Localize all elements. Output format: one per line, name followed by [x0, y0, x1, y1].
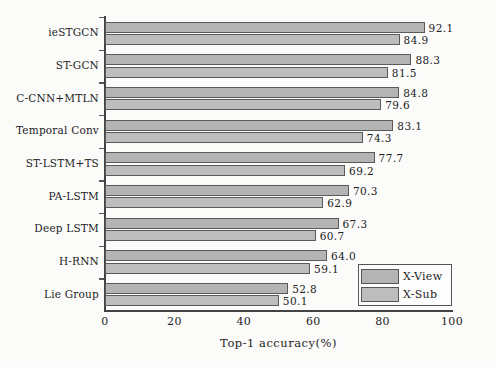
- bar-x-view-st-lstm-ts: [105, 152, 375, 163]
- y-axis-label-temporal-conv: Temporal Conv: [16, 124, 99, 136]
- bar-x-sub-st-gcn: [105, 67, 388, 78]
- bar-value-label: 70.3: [353, 186, 378, 197]
- bar-x-sub-lie-group: [105, 295, 279, 306]
- bar-value-label: 84.8: [403, 88, 428, 99]
- bar-value-label: 64.0: [331, 251, 356, 262]
- y-axis-label-pa-lstm: PA-LSTM: [48, 190, 99, 202]
- y-axis-label-iestgcn: ieSTGCN: [48, 26, 99, 38]
- y-axis-label-lie-group: Lie Group: [44, 288, 99, 300]
- bar-value-label: 83.1: [397, 121, 422, 132]
- bar-x-view-st-gcn: [105, 54, 411, 65]
- legend-swatch-x-view: [361, 269, 399, 284]
- legend-swatch-x-sub: [361, 287, 399, 302]
- legend-label: X-View: [403, 270, 442, 283]
- x-axis-tick-0: 0: [101, 315, 108, 328]
- bar-x-view-h-rnn: [105, 250, 327, 261]
- legend-item-x-view[interactable]: X-View: [361, 267, 449, 285]
- x-axis-tick-100: 100: [441, 315, 463, 328]
- bar-x-sub-temporal-conv: [105, 132, 363, 143]
- bar-x-sub-c-cnn-mtln: [105, 99, 381, 110]
- y-axis-label-st-gcn: ST-GCN: [56, 59, 99, 71]
- legend-item-x-sub[interactable]: X-Sub: [361, 285, 449, 303]
- bar-value-label: 62.9: [327, 198, 352, 209]
- y-axis-label-h-rnn: H-RNN: [59, 255, 99, 267]
- bar-value-label: 60.7: [320, 231, 345, 242]
- bar-value-label: 59.1: [314, 264, 339, 275]
- bar-value-label: 88.3: [415, 55, 440, 66]
- bar-value-label: 77.7: [379, 153, 404, 164]
- chart-legend: X-ViewX-Sub: [358, 264, 452, 306]
- x-axis-tick-60: 60: [306, 315, 321, 328]
- bar-x-view-temporal-conv: [105, 120, 393, 131]
- bar-x-view-iestgcn: [105, 22, 425, 33]
- bar-x-view-lie-group: [105, 283, 288, 294]
- legend-label: X-Sub: [403, 288, 437, 301]
- bar-value-label: 92.1: [429, 23, 454, 34]
- y-axis-label-deep-lstm: Deep LSTM: [34, 222, 99, 234]
- bar-value-label: 74.3: [367, 133, 392, 144]
- bar-x-view-deep-lstm: [105, 218, 339, 229]
- bar-value-label: 67.3: [343, 219, 368, 230]
- x-axis-tick-20: 20: [167, 315, 182, 328]
- bar-value-label: 50.1: [283, 296, 308, 307]
- y-axis-category-labels: ieSTGCNST-GCNC-CNN+MTLNTemporal ConvST-L…: [0, 17, 99, 311]
- bar-x-sub-iestgcn: [105, 34, 400, 45]
- bar-value-label: 69.2: [349, 166, 374, 177]
- x-axis-tick-40: 40: [236, 315, 251, 328]
- bar-value-label: 79.6: [385, 100, 410, 111]
- bar-value-label: 81.5: [392, 68, 417, 79]
- bar-x-sub-st-lstm-ts: [105, 165, 345, 176]
- bar-x-sub-h-rnn: [105, 263, 310, 274]
- y-axis-label-c-cnn-mtln: C-CNN+MTLN: [16, 92, 99, 104]
- bar-x-view-pa-lstm: [105, 185, 349, 196]
- bar-value-label: 52.8: [292, 284, 317, 295]
- bar-x-view-c-cnn-mtln: [105, 87, 399, 98]
- bar-x-sub-pa-lstm: [105, 197, 323, 208]
- bar-chart: ieSTGCNST-GCNC-CNN+MTLNTemporal ConvST-L…: [0, 0, 496, 367]
- bar-x-sub-deep-lstm: [105, 230, 316, 241]
- y-axis-label-st-lstm-ts: ST-LSTM+TS: [26, 157, 99, 169]
- x-axis-title: Top-1 accuracy(%): [105, 336, 452, 350]
- x-axis-tick-80: 80: [375, 315, 390, 328]
- bar-value-label: 84.9: [404, 35, 429, 46]
